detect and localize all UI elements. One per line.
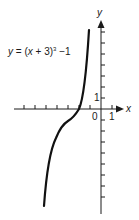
x-one-label: 1 <box>109 111 115 122</box>
x-axis-label: x <box>126 103 131 114</box>
x-ticks <box>24 105 112 109</box>
y-axis-label: y <box>97 7 102 18</box>
y-axis-arrow-icon <box>98 20 105 28</box>
equation-label: y = (x + 3)3 −1 <box>8 46 71 57</box>
y-ticks <box>101 32 105 197</box>
y-one-label: 1 <box>94 92 100 103</box>
cubic-graph <box>0 0 139 220</box>
origin-label: 0 <box>92 111 98 122</box>
x-axis-arrow-icon <box>116 106 124 113</box>
